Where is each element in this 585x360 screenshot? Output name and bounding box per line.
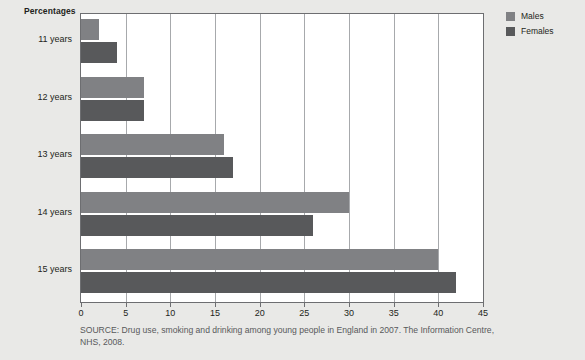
- tick-mark-5: [126, 303, 127, 307]
- tick-label-5: 5: [123, 308, 128, 318]
- bar-males-12-years: [81, 77, 144, 98]
- tick-mark-20: [260, 303, 261, 307]
- tick-label-30: 30: [344, 308, 354, 318]
- tick-mark-30: [349, 303, 350, 307]
- bar-males-11-years: [81, 19, 99, 40]
- bar-females-15-years: [81, 272, 456, 293]
- bar-males-14-years: [81, 192, 349, 213]
- tick-label-35: 35: [389, 308, 399, 318]
- bar-males-15-years: [81, 249, 438, 270]
- legend: MalesFemales: [506, 11, 580, 41]
- tick-label-10: 10: [165, 308, 175, 318]
- tick-mark-45: [483, 303, 484, 307]
- tick-label-45: 45: [478, 308, 488, 318]
- tick-label-15: 15: [210, 308, 220, 318]
- bar-group: [81, 134, 483, 192]
- tick-label-0: 0: [78, 308, 83, 318]
- plot-area: [80, 13, 484, 303]
- bar-group: [81, 19, 483, 77]
- bar-males-13-years: [81, 134, 224, 155]
- tick-mark-10: [170, 303, 171, 307]
- tick-mark-35: [394, 303, 395, 307]
- bars-layer: [81, 14, 483, 302]
- bar-group: [81, 249, 483, 307]
- bar-group: [81, 77, 483, 135]
- legend-label-females: Females: [521, 26, 554, 36]
- category-label-11-years: 11 years: [38, 34, 72, 44]
- tick-label-25: 25: [299, 308, 309, 318]
- tick-label-40: 40: [433, 308, 443, 318]
- category-label-14-years: 14 years: [37, 207, 72, 217]
- tick-mark-40: [438, 303, 439, 307]
- bar-females-12-years: [81, 100, 144, 121]
- legend-swatch-males: [506, 12, 515, 21]
- legend-item-females[interactable]: Females: [506, 26, 580, 36]
- tick-mark-0: [81, 303, 82, 307]
- bar-group: [81, 192, 483, 250]
- bar-females-14-years: [81, 215, 313, 236]
- bar-females-13-years: [81, 157, 233, 178]
- category-label-13-years: 13 years: [37, 149, 72, 159]
- x-axis: 051015202530354045: [80, 303, 484, 321]
- tick-mark-15: [215, 303, 216, 307]
- category-label-15-years: 15 years: [37, 264, 72, 274]
- legend-item-males[interactable]: Males: [506, 11, 580, 21]
- category-axis-labels: 11 years12 years13 years14 years15 years: [0, 13, 76, 303]
- tick-mark-25: [304, 303, 305, 307]
- tick-label-20: 20: [255, 308, 265, 318]
- source-line-1: SOURCE: Drug use, smoking and drinking a…: [80, 324, 510, 336]
- bar-females-11-years: [81, 42, 117, 63]
- source-line-2: NHS, 2008.: [80, 336, 510, 348]
- bar-chart: Percentages 11 years12 years13 years14 y…: [0, 0, 585, 360]
- category-label-12-years: 12 years: [37, 92, 72, 102]
- source-note: SOURCE: Drug use, smoking and drinking a…: [80, 324, 510, 348]
- legend-label-males: Males: [521, 11, 544, 21]
- legend-swatch-females: [506, 27, 515, 36]
